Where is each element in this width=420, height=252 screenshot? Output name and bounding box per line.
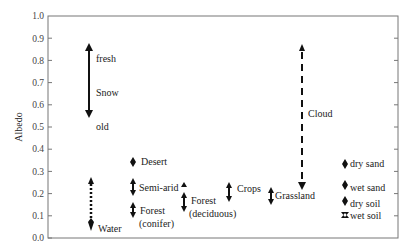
wet-soil-point: wet soil (341, 210, 382, 221)
forest-conifer-label: Forest (140, 205, 165, 216)
y-tick-label: 0.9 (32, 34, 44, 44)
y-tick-label: 0.8 (32, 56, 44, 66)
y-tick-label: 0.4 (32, 144, 44, 154)
albedo-chart: 0.0 0.1 0.2 0.3 0.4 0.5 0.6 0.7 0.8 0.9 … (0, 0, 420, 252)
dry-soil-point: dry soil (342, 196, 381, 209)
snow-fresh-label: fresh (96, 53, 116, 64)
y-tick-label: 1.0 (32, 11, 44, 21)
y-tick-label: 0.7 (32, 78, 44, 88)
grassland-label: Grassland (275, 190, 315, 201)
water-range: Water (88, 177, 122, 234)
wet-soil-label: wet soil (350, 210, 382, 221)
dry-soil-label: dry soil (350, 198, 381, 209)
dry-sand-label: dry sand (350, 158, 384, 169)
wet-sand-point: wet sand (342, 180, 385, 193)
y-tick-label: 0.1 (32, 211, 44, 221)
forest-conifer-sublabel: (conifer) (139, 218, 174, 230)
snow-old-label: old (96, 121, 109, 132)
forest-deciduous-label: Forest (191, 195, 216, 206)
y-tick-label: 0.6 (32, 100, 44, 110)
dry-sand-point: dry sand (342, 158, 384, 169)
water-label: Water (98, 223, 122, 234)
crops-range: Crops (226, 182, 261, 202)
desert-label: Desert (141, 156, 167, 167)
y-tick-label: 0.5 (32, 122, 44, 132)
cloud-label: Cloud (308, 108, 332, 119)
forest-deciduous-sublabel: (deciduous) (189, 208, 236, 220)
crops-label: Crops (237, 183, 261, 194)
desert-point: Desert (130, 156, 167, 167)
y-tick-label: 0.3 (32, 167, 44, 177)
y-axis-label: Albedo (13, 112, 24, 141)
forest-conifer-range: Forest (conifer) (130, 202, 174, 230)
snow-range: fresh Snow old (85, 43, 120, 132)
wet-sand-label: wet sand (350, 182, 385, 193)
grassland-range: Grassland (268, 187, 315, 205)
snow-label: Snow (96, 87, 120, 98)
cloud-range: Cloud (298, 44, 332, 190)
y-tick-label: 0.0 (32, 233, 44, 243)
y-tick-label: 0.2 (32, 189, 44, 199)
semiarid-label: Semi-arid (139, 182, 178, 193)
semiarid-range: Semi-arid (130, 178, 178, 196)
